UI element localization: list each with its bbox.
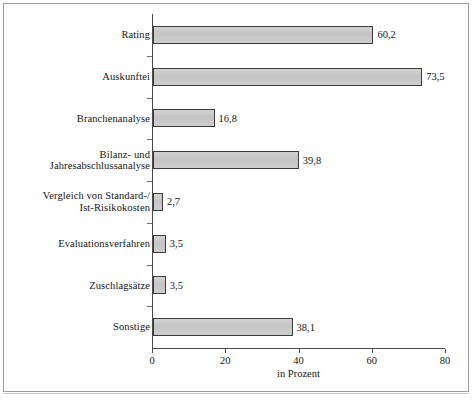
y-axis-tick xyxy=(147,223,152,224)
y-axis-tick xyxy=(147,139,152,140)
category-label: Bilanz- und Jahresabschlussanalyse xyxy=(22,149,150,172)
category-label: Vergleich von Standard-/ Ist-Risikokoste… xyxy=(22,190,150,213)
bar-rows: Rating60,2Auskunftei73,5Branchenanalyse1… xyxy=(0,14,472,348)
bar-with-value: 3,5 xyxy=(153,223,183,265)
bar-value-label: 16,8 xyxy=(219,113,237,124)
bar-value-label: 39,8 xyxy=(303,155,321,166)
bar xyxy=(153,26,373,44)
x-axis-tick-label: 20 xyxy=(205,355,245,366)
category-label: Branchenanalyse xyxy=(22,113,150,125)
bar-with-value: 38,1 xyxy=(153,306,315,348)
x-axis-tick xyxy=(445,349,446,353)
category-label: Rating xyxy=(22,29,150,41)
category-label: Auskunftei xyxy=(22,71,150,83)
bar-row: Branchenanalyse16,8 xyxy=(0,98,472,140)
x-axis-tick xyxy=(152,349,153,353)
x-axis-tick xyxy=(372,349,373,353)
x-axis-tick-label: 80 xyxy=(425,355,465,366)
bar xyxy=(153,193,163,211)
bar-row: Evaluationsverfahren3,5 xyxy=(0,223,472,265)
bar-value-label: 2,7 xyxy=(167,196,180,207)
x-axis-tick-label: 60 xyxy=(352,355,392,366)
bar-value-label: 3,5 xyxy=(170,238,183,249)
bar xyxy=(153,276,166,294)
y-axis-tick xyxy=(147,265,152,266)
bar-value-label: 3,5 xyxy=(170,280,183,291)
bar xyxy=(153,235,166,253)
bar xyxy=(153,318,293,336)
bar-value-label: 60,2 xyxy=(377,29,395,40)
bar xyxy=(153,68,422,86)
bar-row: Sonstige38,1 xyxy=(0,306,472,348)
bar xyxy=(153,109,215,127)
bar-row: Bilanz- und Jahresabschlussanalyse39,8 xyxy=(0,139,472,181)
x-axis-tick xyxy=(225,349,226,353)
bar-value-label: 73,5 xyxy=(426,71,444,82)
x-axis-tick-label: 40 xyxy=(279,355,319,366)
y-axis-tick xyxy=(147,56,152,57)
bar-with-value: 3,5 xyxy=(153,265,183,307)
bar-with-value: 60,2 xyxy=(153,14,396,56)
x-axis-tick xyxy=(299,349,300,353)
x-axis-tick-label: 0 xyxy=(132,355,172,366)
bar-row: Vergleich von Standard-/ Ist-Risikokoste… xyxy=(0,181,472,223)
chart-figure: Rating60,2Auskunftei73,5Branchenanalyse1… xyxy=(0,0,472,403)
category-label: Evaluationsverfahren xyxy=(22,238,150,250)
category-label: Sonstige xyxy=(22,321,150,333)
bar-row: Rating60,2 xyxy=(0,14,472,56)
y-axis-tick xyxy=(147,306,152,307)
bar-value-label: 38,1 xyxy=(297,322,315,333)
x-axis-title: in Prozent xyxy=(152,368,445,379)
bar xyxy=(153,151,299,169)
bar-with-value: 39,8 xyxy=(153,139,321,181)
bar-with-value: 73,5 xyxy=(153,56,445,98)
y-axis-tick xyxy=(147,98,152,99)
bar-row: Zuschlagsätze3,5 xyxy=(0,265,472,307)
category-label: Zuschlagsätze xyxy=(22,280,150,292)
plot-area: Rating60,2Auskunftei73,5Branchenanalyse1… xyxy=(0,0,472,403)
bar-with-value: 2,7 xyxy=(153,181,180,223)
bar-with-value: 16,8 xyxy=(153,98,237,140)
y-axis-tick xyxy=(147,181,152,182)
bar-row: Auskunftei73,5 xyxy=(0,56,472,98)
